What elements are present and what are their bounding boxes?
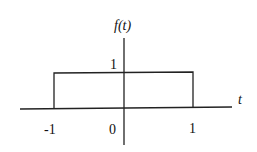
x-axis-label: t [238,92,243,107]
tick-0-label: 0 [109,122,116,137]
tick-neg1-label: -1 [44,122,56,137]
tick-pos1-label: 1 [189,121,196,136]
pulse-diagram: f(t) t 1 -1 0 1 [0,0,257,152]
x-axis [20,107,232,109]
y-axis-label: f(t) [114,18,131,34]
level-1-label: 1 [110,57,117,72]
